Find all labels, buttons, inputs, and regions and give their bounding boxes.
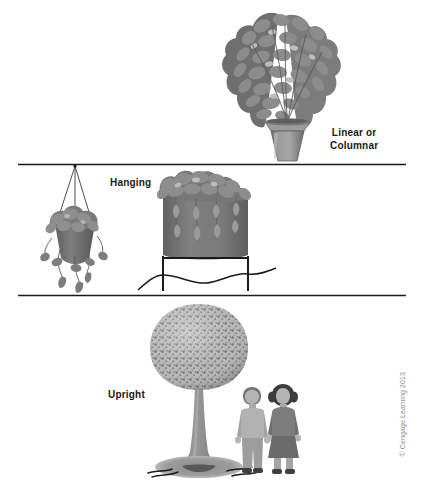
panel-hanging	[18, 164, 406, 295]
label-hanging: Hanging	[110, 176, 151, 189]
label-linear-line2: Columnar	[330, 139, 378, 152]
figure-person-right	[266, 384, 301, 474]
figure-person-left	[235, 387, 270, 473]
scale-figures	[235, 384, 301, 474]
panel-upright	[148, 304, 301, 478]
illustration-canvas	[0, 0, 421, 488]
tree-trunk	[180, 388, 218, 466]
plant-growth-habits-figure: Linear or Columnar Hanging Upright © Cen…	[0, 0, 421, 488]
plant-pot	[265, 119, 310, 161]
ground-line-hanging	[138, 268, 276, 290]
figure-left-pants	[242, 438, 263, 468]
label-linear-line1: Linear or	[330, 126, 378, 139]
figure-right-skirt	[268, 436, 299, 458]
copyright-credit: © Cengage Learning 2013	[399, 372, 406, 457]
upright-tree-illustration	[148, 304, 258, 478]
label-upright: Upright	[108, 388, 145, 401]
basket-hook	[73, 164, 76, 167]
raised-planter-illustration	[154, 170, 253, 290]
figure-left-shirt	[241, 408, 264, 438]
hanging-basket-illustration	[39, 164, 110, 293]
columnar-plant-illustration	[222, 12, 341, 161]
label-linear-columnar: Linear or Columnar	[330, 126, 378, 152]
planter-stand	[163, 257, 248, 290]
figure-right-top	[272, 407, 295, 436]
